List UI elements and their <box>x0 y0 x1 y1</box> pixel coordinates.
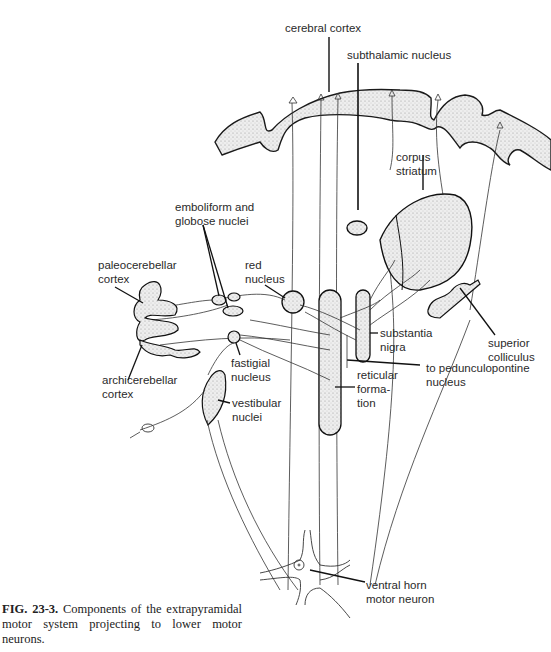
label-reticular-formation: reticular forma- tion <box>357 368 398 410</box>
label-fastigial-nucleus: fastigial nucleus <box>231 356 271 384</box>
figure-caption: FIG. 23-3. Components of the extrapyrami… <box>2 602 242 647</box>
paleocerebellar-cortex-shape <box>134 282 178 341</box>
label-subthalamic-nucleus: subthalamic nucleus <box>347 48 451 62</box>
motor-neuron-shape <box>260 530 350 618</box>
corpus-striatum-shape <box>380 194 472 290</box>
label-emboliform-globose: emboliform and globose nuclei <box>175 200 254 228</box>
diagram-drawing <box>0 0 551 652</box>
label-pedunculopontine: to pedunculopontine nucleus <box>426 361 530 389</box>
subthalamic-nucleus-shape <box>347 221 367 235</box>
archicerebellar-cortex-shape <box>140 340 200 358</box>
vestibular-nuclei-shape <box>202 371 226 425</box>
label-red-nucleus: red nucleus <box>245 258 285 286</box>
label-paleocerebellar-cortex: paleocerebellar cortex <box>98 258 177 286</box>
fastigial-nucleus-shape <box>228 331 240 343</box>
reticular-formation-shape <box>319 290 341 435</box>
label-ventral-horn-motor-neuron: ventral horn motor neuron <box>366 578 434 606</box>
label-archicerebellar-cortex: archicerebellar cortex <box>102 373 177 401</box>
caption-label: FIG. 23-3. <box>2 602 58 616</box>
label-vestibular-nuclei: vestibular nuclei <box>232 396 281 424</box>
label-superior-colliculus: superior colliculus <box>488 336 535 364</box>
label-substantia-nigra: substantia nigra <box>380 326 432 354</box>
substantia-nigra-shape <box>356 290 370 362</box>
extrapyramidal-diagram: cerebral cortex subthalamic nucleus corp… <box>0 0 551 652</box>
label-corpus-striatum: corpus striatum <box>396 150 437 178</box>
cerebral-cortex-band <box>215 89 551 170</box>
label-cerebral-cortex: cerebral cortex <box>285 21 361 35</box>
red-nucleus-shape <box>282 291 304 313</box>
